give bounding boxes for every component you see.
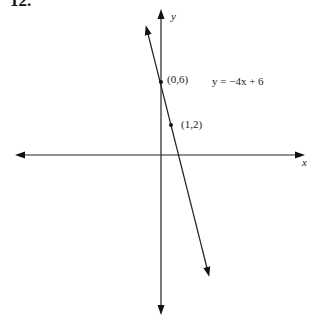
point-label-1-2: (1,2) bbox=[181, 118, 202, 131]
graph-line bbox=[147, 30, 208, 272]
y-axis-label: y bbox=[170, 10, 176, 22]
point-1-2 bbox=[169, 123, 173, 127]
point-label-0-6: (0,6) bbox=[167, 73, 188, 86]
equation-label: y = −4x + 6 bbox=[212, 75, 264, 87]
x-axis-label: x bbox=[301, 156, 307, 168]
graph: y x (0,6) (1,2) y = −4x + 6 bbox=[0, 0, 315, 331]
point-0-6 bbox=[159, 80, 163, 84]
